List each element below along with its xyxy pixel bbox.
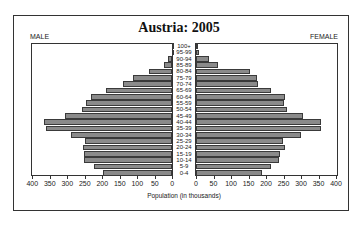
age-group-label: 0-4 [172, 170, 196, 176]
male-bar [133, 75, 172, 81]
male-bar [86, 100, 172, 106]
x-axis-label: Population (in thousands) [0, 192, 358, 199]
female-bar [196, 138, 283, 144]
female-bar [196, 132, 301, 138]
male-bar [84, 157, 172, 163]
male-bar [103, 170, 172, 176]
age-group-label: 15-19 [172, 151, 196, 157]
male-bar [82, 107, 173, 113]
female-bar [196, 113, 303, 119]
female-bar [196, 75, 257, 81]
male-bar [84, 151, 172, 157]
age-group-label: 65-69 [172, 87, 196, 93]
age-group-label: 60-64 [172, 94, 196, 100]
female-bar [196, 81, 258, 87]
x-tick [50, 176, 51, 179]
x-tick [67, 176, 68, 179]
female-bar [196, 56, 209, 62]
age-group-label: 20-24 [172, 144, 196, 150]
male-bar [149, 69, 172, 75]
male-bar [46, 126, 172, 132]
male-bar [44, 119, 172, 125]
x-tick [155, 176, 156, 179]
male-bar [123, 81, 172, 87]
chart-title: Austria: 2005 [0, 20, 358, 36]
x-tick [336, 176, 337, 179]
x-tick [137, 176, 138, 179]
female-label: FEMALE [310, 33, 338, 40]
female-bar [196, 50, 199, 56]
female-bar [196, 69, 250, 75]
x-tick [249, 176, 250, 179]
x-tick [231, 176, 232, 179]
age-group-label: 85-89 [172, 62, 196, 68]
age-group-label: 95-99 [172, 49, 196, 55]
male-bar [65, 113, 172, 119]
female-bar [196, 157, 279, 163]
female-bar [196, 145, 285, 151]
female-bar [196, 62, 218, 68]
x-tick [120, 176, 121, 179]
female-bar [196, 164, 271, 170]
male-bar [106, 88, 173, 94]
age-group-label: 50-54 [172, 106, 196, 112]
female-bar [196, 151, 280, 157]
age-group-label: 35-39 [172, 125, 196, 131]
age-group-label: 30-34 [172, 132, 196, 138]
female-bar [196, 100, 284, 106]
age-group-label: 70-74 [172, 81, 196, 87]
x-tick [214, 176, 215, 179]
x-tick-label: 400 [326, 180, 346, 187]
age-group-label: 90-94 [172, 56, 196, 62]
age-group-label: 45-49 [172, 113, 196, 119]
age-group-label: 75-79 [172, 75, 196, 81]
male-bar [94, 164, 172, 170]
x-tick [172, 176, 173, 179]
x-tick [266, 176, 267, 179]
x-tick [319, 176, 320, 179]
age-group-label: 10-14 [172, 157, 196, 163]
male-bar [85, 138, 172, 144]
male-bar [83, 145, 173, 151]
x-tick [301, 176, 302, 179]
x-tick [102, 176, 103, 179]
age-group-label: 80-84 [172, 68, 196, 74]
age-group-label: 25-29 [172, 138, 196, 144]
x-tick [196, 176, 197, 179]
age-group-label: 40-44 [172, 119, 196, 125]
male-label: MALE [30, 33, 49, 40]
female-bar [196, 107, 287, 113]
female-bar [196, 88, 271, 94]
age-group-label: 100+ [172, 43, 196, 49]
male-bar [91, 94, 173, 100]
age-group-label: 5-9 [172, 163, 196, 169]
age-group-label: 55-59 [172, 100, 196, 106]
female-bar [196, 170, 262, 176]
x-tick [85, 176, 86, 179]
male-bar [71, 132, 173, 138]
female-bar [196, 126, 321, 132]
x-tick [284, 176, 285, 179]
female-bar [196, 43, 198, 49]
x-tick [32, 176, 33, 179]
female-bar [196, 119, 321, 125]
female-bar [196, 94, 285, 100]
x-tick-label: 0 [162, 180, 182, 187]
